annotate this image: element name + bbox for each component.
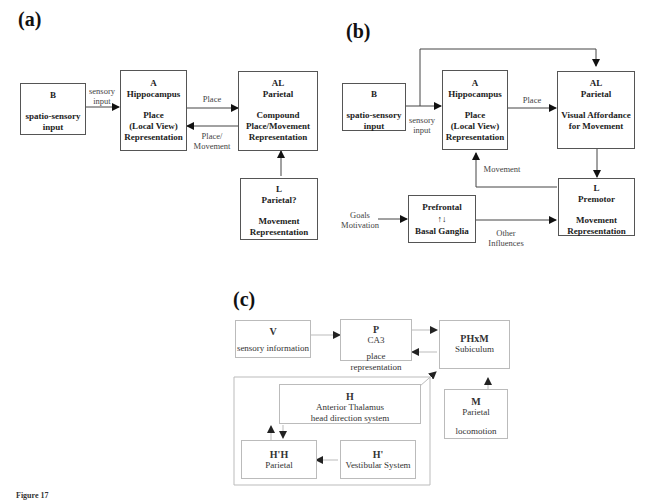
a-box-l-parietal: L Parietal? Movement Representation	[240, 178, 318, 240]
figure-caption: Figure 17	[16, 491, 49, 500]
a-box-b-spatio-sensory: B spatio-sensory input	[20, 83, 86, 135]
c-box-v-sensory: V sensory information	[235, 320, 311, 358]
c-box-p-ca3: P CA3 place representation	[340, 319, 412, 361]
up-down-arrows-icon: ↑↓	[409, 214, 475, 225]
panel-a-label: (a)	[18, 8, 41, 31]
c-box-hh-parietal: H'H Parietal	[241, 440, 317, 479]
c-box-phxm-subiculum: PHxM Subiculum	[439, 320, 510, 369]
b-edge-sensory-input: sensory input	[407, 115, 437, 135]
b-edge-goals-motivation: Goals Motivation	[340, 210, 380, 230]
b-box-b-spatio-sensory: B spatio-sensory input	[342, 83, 406, 131]
b-edge-other-influences: Other Influences	[484, 228, 528, 248]
b-box-a-hippocampus: A Hippocampus Place (Local View) Represe…	[442, 70, 508, 150]
c-box-h-anterior-thalamus: H Anterior Thalamus head direction syste…	[279, 384, 421, 424]
a-box-al-parietal: AL Parietal Compound Place/Movement Repr…	[238, 71, 318, 151]
b-edge-movement: Movement	[482, 164, 522, 174]
b-box-al-parietal: AL Parietal Visual Affordance for Moveme…	[557, 71, 635, 149]
a-edge-place: Place	[199, 94, 225, 104]
panel-b-label: (b)	[346, 20, 370, 43]
b-box-prefrontal-basal-ganglia: Prefrontal ↑↓ Basal Ganglia	[408, 195, 476, 243]
a-box-a-hippocampus: A Hippocampus Place (Local View) Represe…	[120, 70, 187, 151]
c-box-hprime-vestibular: H' Vestibular System	[340, 440, 416, 479]
panel-c-label: (c)	[233, 288, 255, 311]
b-edge-place: Place	[519, 95, 545, 105]
c-box-m-parietal: M Parietal locomotion	[444, 389, 508, 439]
b-box-l-premotor: L Premotor Movement Representation	[558, 178, 635, 236]
a-edge-place-movement: Place/ Movement	[192, 131, 232, 151]
a-edge-sensory-input: sensory input	[86, 86, 118, 106]
